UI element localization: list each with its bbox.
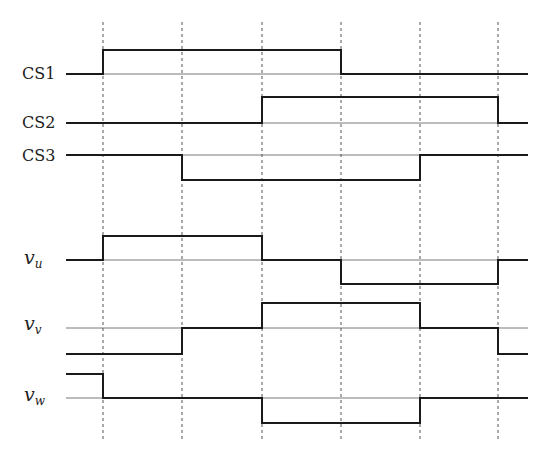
waveform-cs3 [66,155,528,180]
waveform-cs1 [66,50,528,74]
signal-waveforms [66,50,528,423]
label-vu: vu [24,248,42,270]
label-cs2: CS2 [22,115,55,131]
label-vw: vw [24,385,45,407]
label-cs1: CS1 [22,66,55,82]
label-vv: vv [24,314,42,336]
label-vv-main: v [24,312,35,334]
waveform-vv [66,303,528,354]
timing-diagram: CS1 CS2 CS3 vu vv vw [0,0,548,458]
label-vw-main: v [24,383,35,405]
label-cs3: CS3 [22,148,55,164]
waveform-plot [0,0,548,458]
waveform-cs2 [66,97,528,123]
waveform-vw [66,374,528,423]
label-vw-sub: w [35,394,45,408]
label-vv-sub: v [35,323,42,337]
transition-guide-lines [103,22,498,440]
label-vu-main: v [24,246,35,268]
label-vu-sub: u [35,257,43,271]
